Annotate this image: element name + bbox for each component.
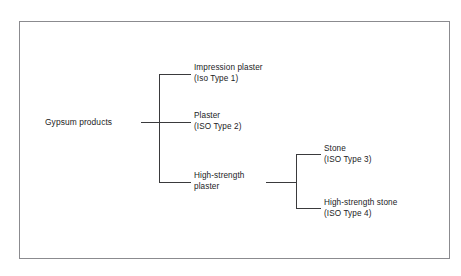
figure-frame: Gypsum products Impression plaster (Iso … xyxy=(19,21,450,259)
diagram-page: Gypsum products Impression plaster (Iso … xyxy=(0,0,461,276)
node-high-strength-stone: High-strength stone (ISO Type 4) xyxy=(324,197,397,219)
node-impression-plaster: Impression plaster (Iso Type 1) xyxy=(194,62,263,84)
node-plaster: Plaster (ISO Type 2) xyxy=(194,110,241,132)
node-impression-plaster-title: Impression plaster xyxy=(194,62,263,73)
bracket-1-spine xyxy=(159,74,160,182)
node-stone: Stone (ISO Type 3) xyxy=(324,143,371,165)
node-high-strength-plaster: High-strength plaster xyxy=(194,170,244,192)
bracket-2-spine xyxy=(296,154,297,208)
node-plaster-title: Plaster xyxy=(194,110,241,121)
bracket-1-arm-top xyxy=(159,74,191,75)
bracket-1-arm-middle xyxy=(159,122,191,123)
connector-high-strength-plaster-stem xyxy=(266,182,296,183)
node-plaster-subtitle: (ISO Type 2) xyxy=(194,121,241,132)
node-high-strength-plaster-subtitle: plaster xyxy=(194,181,244,192)
node-high-strength-stone-subtitle: (ISO Type 4) xyxy=(324,208,397,219)
bracket-1-arm-bottom xyxy=(159,182,191,183)
bracket-2-arm-bottom xyxy=(296,208,321,209)
node-gypsum-products-label: Gypsum products xyxy=(45,117,112,128)
node-gypsum-products: Gypsum products xyxy=(45,117,112,128)
node-stone-title: Stone xyxy=(324,143,371,154)
node-high-strength-stone-title: High-strength stone xyxy=(324,197,397,208)
node-high-strength-plaster-title: High-strength xyxy=(194,170,244,181)
node-impression-plaster-subtitle: (Iso Type 1) xyxy=(194,73,263,84)
bracket-2-arm-top xyxy=(296,154,321,155)
node-stone-subtitle: (ISO Type 3) xyxy=(324,154,371,165)
